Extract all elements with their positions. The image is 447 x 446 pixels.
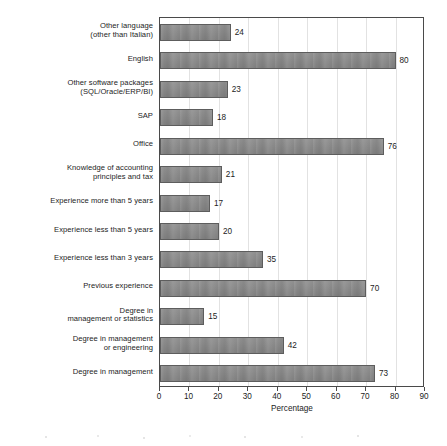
gridline	[278, 18, 279, 386]
scan-artifact	[40, 434, 400, 440]
category-label: Office	[1, 140, 153, 149]
gridline	[307, 18, 308, 386]
category-label: Degree in management	[1, 368, 153, 377]
bar	[160, 195, 210, 212]
x-tick	[247, 387, 248, 391]
category-label-line: English	[1, 55, 153, 64]
category-axis-labels: Other language(other than Italian)Englis…	[0, 17, 156, 387]
category-label: Knowledge of accountingprinciples and ta…	[1, 164, 153, 182]
category-label-line: or engineering	[1, 344, 153, 353]
bar-value-label: 15	[208, 308, 217, 325]
x-tick	[306, 387, 307, 391]
x-tick	[218, 387, 219, 391]
bar-value-label: 70	[370, 280, 379, 297]
category-label: English	[1, 55, 153, 64]
bar-value-label: 18	[217, 109, 226, 126]
bar	[160, 81, 228, 98]
bar	[160, 24, 231, 41]
category-label-line: (other than Italian)	[1, 31, 153, 40]
bar-value-label: 24	[235, 24, 244, 41]
bar-value-label: 35	[267, 251, 276, 268]
bar	[160, 52, 396, 69]
category-label: Experience less than 3 years	[1, 254, 153, 263]
category-label-line: SAP	[1, 112, 153, 121]
category-label-line: principles and tax	[1, 173, 153, 182]
x-tick	[159, 387, 160, 391]
category-label-line: management or statistics	[1, 315, 153, 324]
x-tick-label: 80	[390, 392, 399, 401]
bar-value-label: 20	[223, 223, 232, 240]
category-label-line: Experience less than 3 years	[1, 254, 153, 263]
category-label-line: Experience more than 5 years	[1, 197, 153, 206]
bar	[160, 138, 384, 155]
x-tick-label: 70	[361, 392, 370, 401]
x-tick	[365, 387, 366, 391]
bar	[160, 365, 375, 382]
x-tick	[188, 387, 189, 391]
plot-area: 24802318762117203570154273	[159, 17, 424, 387]
category-label-line: Previous experience	[1, 282, 153, 291]
bar-value-label: 17	[214, 195, 223, 212]
category-label-line: Office	[1, 140, 153, 149]
category-label: Degree inmanagement or statistics	[1, 307, 153, 325]
bar	[160, 308, 204, 325]
bar-value-label: 80	[400, 52, 409, 69]
category-label: Other language(other than Italian)	[1, 22, 153, 40]
x-tick-label: 40	[272, 392, 281, 401]
bar-value-label: 23	[232, 81, 241, 98]
bar	[160, 337, 284, 354]
category-label: Degree in managementor engineering	[1, 335, 153, 353]
category-label-line: Experience less than 5 years	[1, 226, 153, 235]
bar-value-label: 76	[388, 138, 397, 155]
category-label: Experience less than 5 years	[1, 226, 153, 235]
bar	[160, 251, 263, 268]
x-tick-label: 20	[213, 392, 222, 401]
bar-chart-figure: Other language(other than Italian)Englis…	[0, 0, 447, 446]
x-tick	[395, 387, 396, 391]
category-label: Previous experience	[1, 282, 153, 291]
x-tick-label: 60	[331, 392, 340, 401]
category-label: SAP	[1, 112, 153, 121]
bar	[160, 223, 219, 240]
x-tick	[424, 387, 425, 391]
x-tick-label: 30	[243, 392, 252, 401]
bar-value-label: 73	[379, 365, 388, 382]
bar	[160, 109, 213, 126]
category-label-line: Degree in management	[1, 368, 153, 377]
x-tick-label: 50	[302, 392, 311, 401]
x-axis: Percentage 0102030405060708090	[159, 387, 425, 427]
category-label: Other software packages(SQL/Oracle/ERP/B…	[1, 79, 153, 97]
x-tick	[277, 387, 278, 391]
x-axis-title: Percentage	[159, 404, 425, 413]
gridline	[337, 18, 338, 386]
category-label-line: (SQL/Oracle/ERP/BI)	[1, 88, 153, 97]
bar	[160, 280, 366, 297]
bar-value-label: 42	[288, 337, 297, 354]
x-tick-label: 10	[184, 392, 193, 401]
x-tick-label: 0	[157, 392, 162, 401]
gridline	[366, 18, 367, 386]
x-tick-label: 90	[419, 392, 428, 401]
gridline	[396, 18, 397, 386]
x-tick	[336, 387, 337, 391]
bar-value-label: 21	[226, 166, 235, 183]
bar	[160, 166, 222, 183]
gridline	[248, 18, 249, 386]
category-label: Experience more than 5 years	[1, 197, 153, 206]
